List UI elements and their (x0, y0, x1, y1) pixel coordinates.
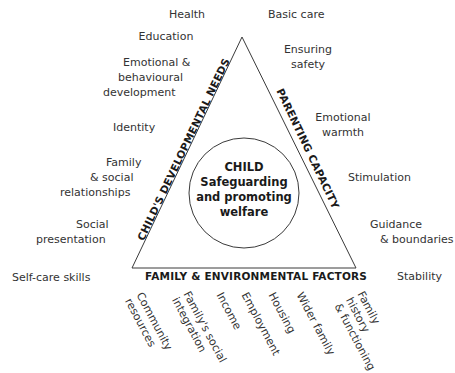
parenting-stability: Stability (397, 269, 442, 284)
parenting-guidance-boundaries: Guidance & boundaries (370, 217, 454, 247)
center-line: welfare (189, 205, 299, 220)
label-line: Stimulation (348, 170, 411, 185)
label-line: & social (58, 170, 148, 185)
need-identity: Identity (113, 120, 155, 135)
need-education: Education (134, 29, 198, 44)
label-line: Identity (113, 120, 155, 135)
center-line: and promoting (189, 190, 299, 205)
label-line: Ensuring (280, 42, 336, 57)
need-family-social-relationships: Family & social relationships (58, 155, 148, 200)
center-line: Safeguarding (189, 175, 299, 190)
center-label: CHILD Safeguarding and promoting welfare (189, 160, 299, 220)
label-line: safety (280, 57, 336, 72)
label-line: development (100, 85, 190, 100)
label-line: warmth (314, 125, 372, 140)
label-line: presentation (36, 232, 116, 247)
label-line: Social (36, 217, 116, 232)
label-line: Health (160, 7, 214, 22)
parenting-ensuring-safety: Ensuring safety (280, 42, 336, 72)
label-line: Education (134, 29, 198, 44)
label-line: & boundaries (370, 232, 454, 247)
label-line: Emotional & (100, 55, 190, 70)
parenting-emotional-warmth: Emotional warmth (314, 110, 372, 140)
need-self-care-skills: Self-care skills (12, 270, 90, 285)
parenting-stimulation: Stimulation (348, 170, 411, 185)
center-title: CHILD (189, 160, 299, 175)
label-line: relationships (58, 185, 148, 200)
need-health: Health (160, 7, 214, 22)
label-line: Emotional (314, 110, 372, 125)
label-line: Family (58, 155, 148, 170)
side-label-family-factors: FAMILY & ENVIRONMENTAL FACTORS (145, 270, 345, 282)
label-line: Self-care skills (12, 270, 90, 285)
parenting-basic-care: Basic care (268, 7, 324, 22)
label-line: Basic care (268, 7, 324, 22)
need-social-presentation: Social presentation (36, 217, 116, 247)
label-line: Stability (397, 269, 442, 284)
label-line: behavioural (100, 70, 190, 85)
label-line: Guidance (370, 217, 454, 232)
need-emotional-behavioural-development: Emotional & behavioural development (100, 55, 190, 100)
